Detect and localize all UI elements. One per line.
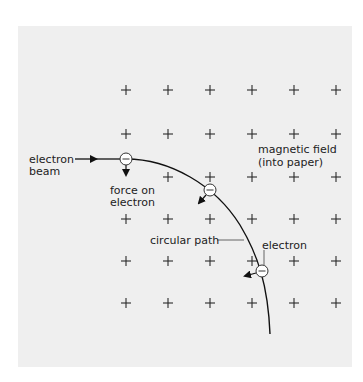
field-plus-icon: [247, 214, 257, 224]
field-plus-icon: [163, 172, 173, 182]
field-plus-icon: [121, 256, 131, 266]
field-plus-icon: [289, 214, 299, 224]
electron-beam-label-2: beam: [29, 165, 60, 178]
field-plus-icon: [331, 172, 341, 182]
electron-icon: [204, 184, 216, 196]
field-plus-icon: [331, 298, 341, 308]
field-plus-icon: [163, 298, 173, 308]
electron-icon: [120, 153, 132, 165]
force-arrow-3: [245, 273, 256, 276]
field-plus-icon: [205, 214, 215, 224]
field-plus-icon: [121, 214, 131, 224]
field-plus-icon: [163, 214, 173, 224]
field-plus-icon: [247, 298, 257, 308]
field-plus-icon: [163, 85, 173, 95]
field-plus-icon: [205, 256, 215, 266]
field-plus-icon: [247, 172, 257, 182]
field-plus-icon: [205, 129, 215, 139]
field-plus-icon: [247, 129, 257, 139]
field-plus-icon: [289, 172, 299, 182]
field-plus-icon: [163, 256, 173, 266]
field-plus-icon: [331, 85, 341, 95]
field-plus-icon: [121, 298, 131, 308]
field-plus-icon: [205, 85, 215, 95]
circular-path-label: circular path: [150, 234, 219, 247]
field-plus-icon: [331, 129, 341, 139]
field-plus-icon: [331, 214, 341, 224]
field-plus-icon: [205, 172, 215, 182]
electron-magnetic-field-diagram: electron beam force on electron magnetic…: [0, 0, 363, 382]
field-plus-icon: [289, 85, 299, 95]
field-plus-icon: [289, 129, 299, 139]
field-plus-icon: [247, 85, 257, 95]
field-plus-icon: [121, 85, 131, 95]
field-plus-icon: [163, 129, 173, 139]
field-plus-icon: [121, 129, 131, 139]
force-label-2: electron: [110, 196, 155, 209]
magnetic-field-label: magnetic field: [258, 143, 337, 156]
force-arrow-2: [199, 195, 206, 203]
field-plus-icon: [205, 298, 215, 308]
electron-icon: [256, 265, 268, 277]
magnetic-field-label-2: (into paper): [258, 156, 323, 169]
field-plus-icon: [289, 256, 299, 266]
field-plus-icon: [289, 298, 299, 308]
field-plus-icon: [331, 256, 341, 266]
electron-label: electron: [262, 239, 307, 252]
